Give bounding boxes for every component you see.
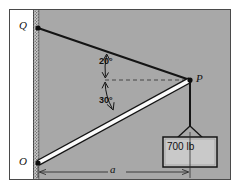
cable-qp [38, 28, 190, 80]
load-label-700lb: 700 lb [167, 142, 194, 152]
joint-dot-q [35, 25, 40, 30]
joint-dot-p [187, 77, 192, 82]
angle-label-30: 30° [99, 96, 113, 105]
joint-dot-o [35, 160, 40, 165]
point-label-q: Q [19, 20, 27, 31]
point-label-o: O [19, 156, 27, 167]
angle-label-20: 20° [99, 57, 113, 66]
figure-diagram-svg [0, 0, 244, 192]
point-label-p: P [196, 73, 203, 84]
dimension-label-a: a [110, 164, 116, 175]
sling-leg-left [177, 126, 190, 138]
sling-leg-right [190, 126, 203, 138]
wall-hatch-edge [33, 10, 39, 179]
figure-root: Q O P a 20° 30° 700 lb [0, 0, 244, 192]
wall-body [10, 10, 34, 179]
